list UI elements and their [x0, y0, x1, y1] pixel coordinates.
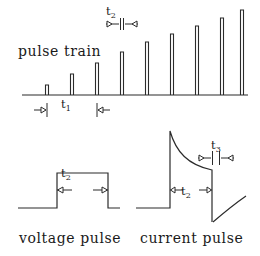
t3-arrow-left-head: [199, 155, 204, 161]
pulse-9: [241, 10, 244, 95]
t1-arrow-left-head: [41, 107, 46, 113]
t1-train-subscript: 1: [66, 104, 71, 113]
t2-current-label: t2: [181, 186, 191, 200]
pulse-3: [96, 63, 99, 95]
t2-voltage-arrow-right-head: [102, 187, 108, 193]
t2-voltage-annotation: [57, 187, 108, 193]
t2-voltage-label: t2: [61, 168, 71, 182]
pulse-1: [46, 85, 49, 95]
t2-voltage-subscript: 2: [66, 173, 71, 182]
t2-train-arrow-left-head: [107, 21, 112, 27]
current-pulse-panel: [136, 131, 246, 222]
current-pulse-waveform: [136, 131, 212, 222]
pulse-diagram-figure: pulse train voltage pulse current pulse …: [0, 0, 260, 256]
t2-train-label: t2: [106, 6, 116, 20]
t2-train-arrow-right-head: [132, 21, 137, 27]
t2-current-subscript: 2: [186, 191, 191, 200]
t1-train-annotation: [34, 103, 110, 117]
pulse-train-label: pulse train: [18, 44, 101, 58]
diagram-canvas: [0, 0, 260, 256]
pulse-4: [121, 52, 124, 95]
pulse-7: [196, 26, 199, 95]
pulse-2: [71, 74, 74, 95]
t2-current-annotation: [170, 187, 212, 193]
current-pulse-recovery-curve: [213, 196, 246, 222]
t3-current-label: t3: [211, 140, 221, 154]
t1-train-label: t1: [61, 99, 71, 113]
pulse-8: [221, 18, 224, 95]
t2-current-arrow-left-head: [171, 187, 176, 193]
pulse-train-panel: [22, 10, 248, 117]
t2-current-arrow-right-head: [207, 187, 212, 193]
pulse-6: [171, 34, 174, 95]
voltage-pulse-label: voltage pulse: [19, 231, 121, 245]
t1-arrow-right-head: [98, 107, 103, 113]
pulse-5: [146, 42, 149, 95]
current-pulse-label: current pulse: [140, 231, 243, 245]
t3-arrow-right-head: [228, 155, 233, 161]
t2-train-subscript: 2: [111, 11, 116, 20]
t2-voltage-arrow-left-head: [58, 187, 64, 193]
t3-current-subscript: 3: [216, 145, 221, 154]
